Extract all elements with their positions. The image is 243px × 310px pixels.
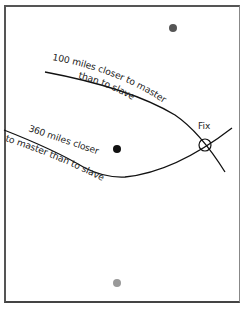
loran-diagram: 100 miles closer to master than to slave… — [0, 0, 243, 310]
station-dot-master — [113, 145, 121, 153]
station-dot-bottom — [113, 279, 121, 287]
station-dot-top — [169, 24, 177, 32]
label-100-miles-line1: 100 miles closer to master — [52, 51, 169, 105]
fix-circle-icon — [199, 139, 211, 151]
fix-label: Fix — [198, 121, 211, 131]
